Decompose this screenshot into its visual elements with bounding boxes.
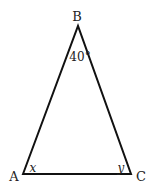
angle-label-a: x <box>30 161 37 175</box>
vertex-label-c: C <box>136 169 146 184</box>
vertex-label-b: B <box>72 9 82 24</box>
triangle-abc <box>23 26 131 174</box>
triangle-diagram: B 40° A x y C <box>0 0 152 192</box>
vertex-label-a: A <box>8 169 19 184</box>
angle-label-c: y <box>117 161 125 175</box>
angle-label-b: 40° <box>69 50 90 64</box>
